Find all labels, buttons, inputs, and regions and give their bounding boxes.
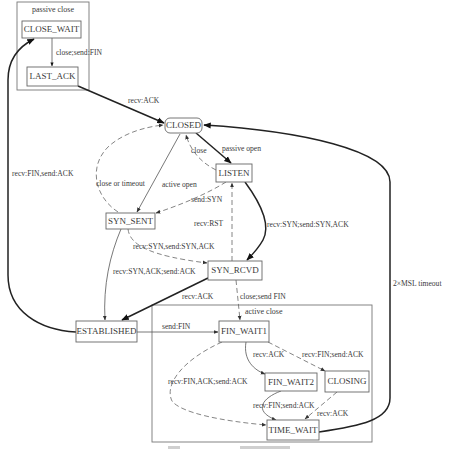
state-syn-sent-label: SYN_SENT	[108, 216, 154, 226]
label-recv-ack-closing: recv:ACK	[317, 409, 349, 418]
state-time-wait: TIME_WAIT	[267, 420, 319, 440]
label-recv-ack-synrcvd: recv:ACK	[182, 292, 214, 301]
label-recv-syn-send-synack-synsent: recv:SYN,send:SYN,ACK	[133, 242, 215, 251]
state-established: ESTABLISHED	[76, 321, 137, 342]
active-close-label: active close	[245, 307, 283, 316]
label-close-listen: close	[191, 146, 207, 155]
edge-synsent-closed	[96, 125, 163, 212]
state-syn-rcvd: SYN_RCVD	[208, 261, 262, 280]
label-recv-rst: recv:RST	[194, 219, 223, 228]
label-recv-ack-finwait1: recv:ACK	[253, 350, 285, 359]
state-closing-label: CLOSING	[327, 376, 367, 386]
label-recv-ack-lastack: recv:ACK	[128, 96, 160, 105]
label-recv-fin-send-ack: recv:FIN,send:ACK	[12, 169, 74, 178]
state-fin-wait2-label: FIN_WAIT2	[268, 377, 314, 387]
label-2msl-timeout: 2×MSL timeout	[393, 279, 442, 288]
state-closed-label: CLOSED	[166, 120, 202, 130]
state-syn-rcvd-label: SYN_RCVD	[211, 265, 259, 275]
state-close-wait: CLOSE_WAIT	[22, 21, 81, 38]
tcp-state-diagram: passive close close;send:FIN recv:ACK re…	[0, 0, 453, 449]
label-close-send-fin-synrcvd: close;send FIN	[240, 292, 286, 301]
state-close-wait-label: CLOSE_WAIT	[24, 24, 80, 34]
state-closing: CLOSING	[325, 371, 369, 392]
passive-close-label: passive close	[32, 5, 74, 14]
label-recv-fin-send-ack-finwait1: recv:FIN;send:ACK	[302, 350, 364, 359]
state-last-ack-label: LAST_ACK	[29, 71, 76, 81]
state-established-label: ESTABLISHED	[77, 326, 137, 336]
state-time-wait-label: TIME_WAIT	[269, 425, 318, 435]
label-recv-finack-send-ack: recv:FIN,ACK;send:ACK	[168, 377, 248, 386]
label-send-fin: send:FIN	[162, 322, 191, 331]
state-last-ack: LAST_ACK	[27, 67, 78, 86]
edge-closed-synsent	[137, 134, 180, 212]
label-passive-open: passive open	[222, 144, 261, 153]
label-close-send-fin: close;send:FIN	[56, 48, 102, 57]
label-recv-synack-send-ack: recv:SYN,ACK;send:ACK	[113, 267, 196, 276]
label-send-syn: send:SYN	[191, 195, 223, 204]
label-active-open: active open	[162, 180, 197, 189]
state-fin-wait1: FIN_WAIT1	[219, 321, 269, 342]
label-recv-fin-send-ack-finwait2: recv:FIN;send:ACK	[253, 401, 315, 410]
label-close-or-timeout: close or timeout	[96, 179, 146, 188]
state-listen-label: LISTEN	[219, 168, 250, 178]
transition-labels: close;send:FIN recv:ACK recv:FIN,send:AC…	[12, 48, 442, 418]
edge-listen-synrcvd	[245, 182, 266, 260]
state-fin-wait2: FIN_WAIT2	[265, 373, 317, 391]
state-fin-wait1-label: FIN_WAIT1	[221, 326, 267, 336]
label-recv-syn-send-synack-listen: recv:SYN;send:SYN,ACK	[267, 220, 349, 229]
state-listen: LISTEN	[216, 164, 252, 182]
state-closed: CLOSED	[165, 118, 202, 133]
state-syn-sent: SYN_SENT	[106, 213, 155, 229]
